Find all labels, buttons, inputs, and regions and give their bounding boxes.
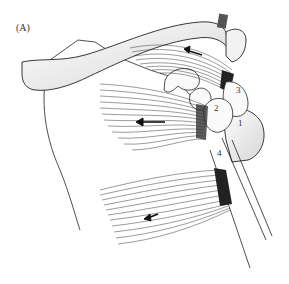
label-3: 3 <box>236 85 241 95</box>
coracoid <box>164 68 199 92</box>
panel-label: (A) <box>16 22 30 33</box>
subscapularis-tendon <box>196 104 208 140</box>
shoulder-anatomy-figure: (A) 1 2 3 4 <box>0 0 289 284</box>
teres-tendon <box>214 168 232 206</box>
label-1: 1 <box>238 118 243 128</box>
subscapularis-muscle <box>100 84 206 150</box>
anatomy-drawing <box>0 0 289 284</box>
label-2: 2 <box>214 103 219 113</box>
label-4: 4 <box>217 148 222 158</box>
teres-minor-muscle <box>100 170 230 244</box>
clavicle <box>22 13 246 90</box>
